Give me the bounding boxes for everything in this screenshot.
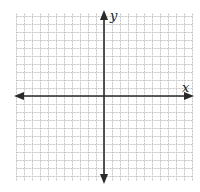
- x-axis-left-arrow-icon: [14, 92, 24, 100]
- coordinate-plane: y x: [0, 0, 200, 192]
- y-axis-up-arrow-icon: [100, 10, 108, 20]
- y-axis-down-arrow-icon: [100, 174, 108, 184]
- y-axis-label: y: [109, 8, 118, 23]
- x-axis-label: x: [182, 80, 190, 95]
